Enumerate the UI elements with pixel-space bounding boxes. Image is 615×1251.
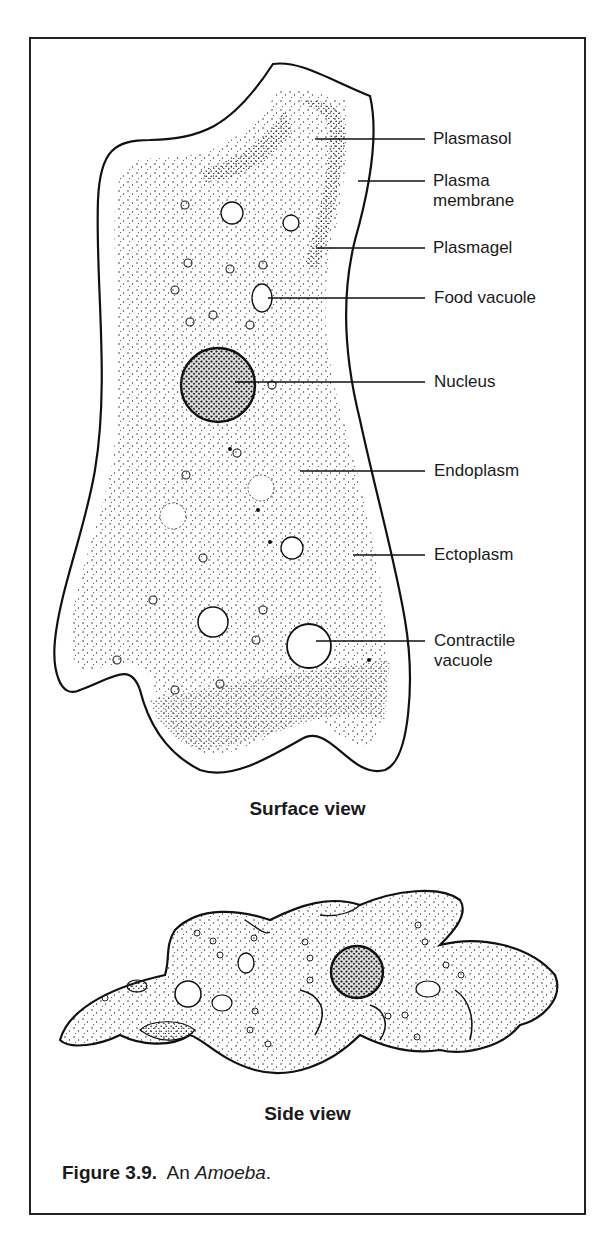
label-plasmagel: Plasmagel	[433, 238, 512, 258]
label-endoplasm: Endoplasm	[434, 461, 519, 481]
label-food-vacuole: Food vacuole	[434, 288, 536, 308]
label-plasmasol: Plasmasol	[433, 129, 511, 149]
figure-title-prefix: An	[167, 1162, 190, 1183]
label-text: Food vacuole	[434, 288, 536, 307]
label-text-line2: membrane	[433, 191, 514, 211]
label-text-line1: Plasma	[433, 171, 514, 191]
label-nucleus: Nucleus	[434, 372, 495, 392]
label-ectoplasm: Ectoplasm	[434, 545, 513, 565]
label-contractile-vacuole: Contractile vacuole	[434, 631, 515, 671]
side-view-caption: Side view	[0, 1103, 615, 1125]
label-text: Ectoplasm	[434, 545, 513, 564]
label-text: Plasmagel	[433, 238, 512, 257]
amoeba-illustration	[0, 0, 615, 1251]
surface-view-amoeba	[54, 63, 425, 772]
surface-view-caption: Surface view	[0, 798, 615, 820]
label-text-line2: vacuole	[434, 651, 515, 671]
side-view-amoeba	[60, 891, 557, 1073]
figure-title-suffix: .	[266, 1162, 271, 1183]
figure-number: Figure 3.9.	[62, 1162, 157, 1183]
label-text: Nucleus	[434, 372, 495, 391]
label-text-line1: Contractile	[434, 631, 515, 651]
label-text: Endoplasm	[434, 461, 519, 480]
figure-title-italic: Amoeba	[195, 1162, 266, 1183]
label-plasma-membrane: Plasma membrane	[433, 171, 514, 211]
label-text: Plasmasol	[433, 129, 511, 148]
figure-caption: Figure 3.9. An Amoeba.	[62, 1162, 271, 1184]
